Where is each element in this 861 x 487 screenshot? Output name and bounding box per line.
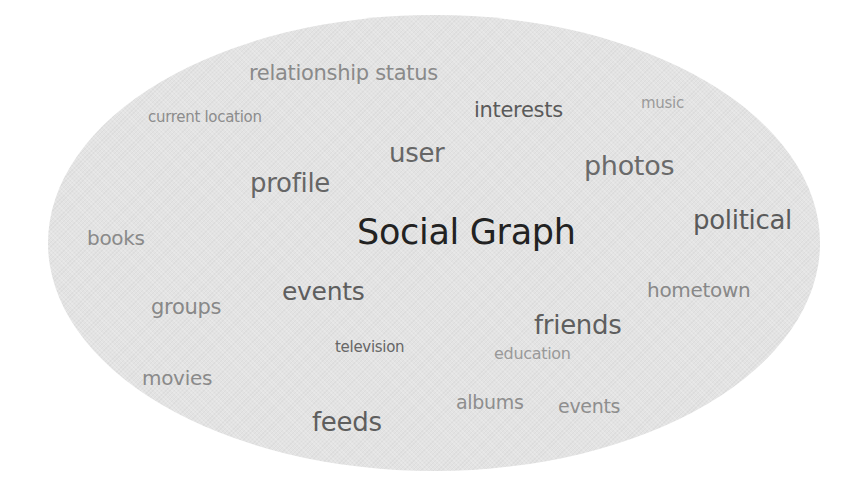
word-movies: movies bbox=[142, 368, 212, 388]
word-education: education bbox=[494, 346, 571, 362]
word-events-large: events bbox=[282, 279, 364, 304]
word-current-location: current location bbox=[148, 110, 262, 125]
word-user: user bbox=[389, 140, 445, 166]
word-feeds: feeds bbox=[312, 409, 382, 435]
word-events-small: events bbox=[558, 397, 620, 416]
word-books: books bbox=[87, 228, 145, 248]
word-friends: friends bbox=[534, 312, 622, 338]
word-groups: groups bbox=[151, 297, 221, 318]
word-interests: interests bbox=[474, 100, 563, 121]
word-television: television bbox=[335, 340, 404, 355]
word-albums: albums bbox=[456, 393, 524, 412]
word-music: music bbox=[641, 96, 684, 111]
word-political: political bbox=[693, 207, 792, 233]
word-profile: profile bbox=[250, 170, 330, 196]
word-relationship-status: relationship status bbox=[249, 63, 438, 84]
central-title-social-graph: Social Graph bbox=[357, 215, 576, 250]
word-hometown: hometown bbox=[647, 280, 750, 300]
word-photos: photos bbox=[584, 152, 674, 179]
